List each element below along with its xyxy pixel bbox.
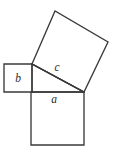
square-on-leg-a	[31, 92, 84, 145]
pythagorean-theorem-diagram: a b c	[0, 0, 118, 159]
label-hypotenuse-c: c	[54, 61, 59, 73]
square-on-hypotenuse-c	[32, 11, 108, 92]
label-leg-b: b	[15, 72, 21, 84]
label-leg-a: a	[51, 93, 57, 105]
pythagorean-diagram-figure: a b c	[0, 0, 118, 159]
